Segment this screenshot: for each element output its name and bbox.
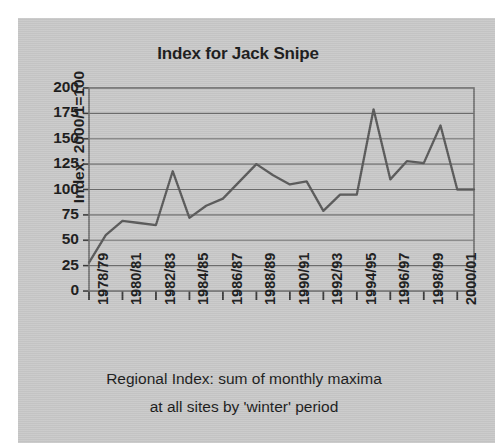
x-tick-marks: [89, 291, 474, 300]
x-tick-label: 1996/97: [396, 253, 412, 305]
y-tick-label: 0: [31, 281, 79, 299]
y-tick-label: 175: [31, 103, 79, 121]
x-tick-label: 1986/87: [229, 253, 245, 305]
x-tick-label: 1994/95: [363, 253, 379, 305]
data-series-line: [89, 109, 474, 262]
x-tick-label: 1988/89: [262, 253, 278, 305]
x-axis-caption-line-1: Regional Index: sum of monthly maxima: [24, 370, 464, 388]
x-tick-label: 1998/99: [430, 253, 446, 305]
y-tick-label: 100: [31, 180, 79, 198]
x-tick-label: 2000/01: [463, 253, 479, 305]
x-tick-label: 1978/79: [95, 253, 111, 305]
x-tick-label: 1992/93: [329, 253, 345, 305]
y-tick-label: 150: [31, 129, 79, 147]
y-tick-marks: [83, 88, 89, 291]
gridlines: [89, 113, 474, 265]
x-tick-label: 1980/81: [128, 253, 144, 305]
y-tick-label: 200: [31, 78, 79, 96]
y-tick-label: 75: [31, 205, 79, 223]
x-tick-label: 1982/83: [162, 253, 178, 305]
y-tick-label: 125: [31, 154, 79, 172]
chart-figure: Index for Jack Snipe Index: 2000/1=100 0…: [18, 18, 495, 443]
y-tick-label: 50: [31, 230, 79, 248]
x-tick-label: 1990/91: [296, 253, 312, 305]
y-tick-label: 25: [31, 256, 79, 274]
x-tick-label: 1984/85: [195, 253, 211, 305]
x-axis-caption-line-2: at all sites by 'winter' period: [24, 398, 464, 416]
